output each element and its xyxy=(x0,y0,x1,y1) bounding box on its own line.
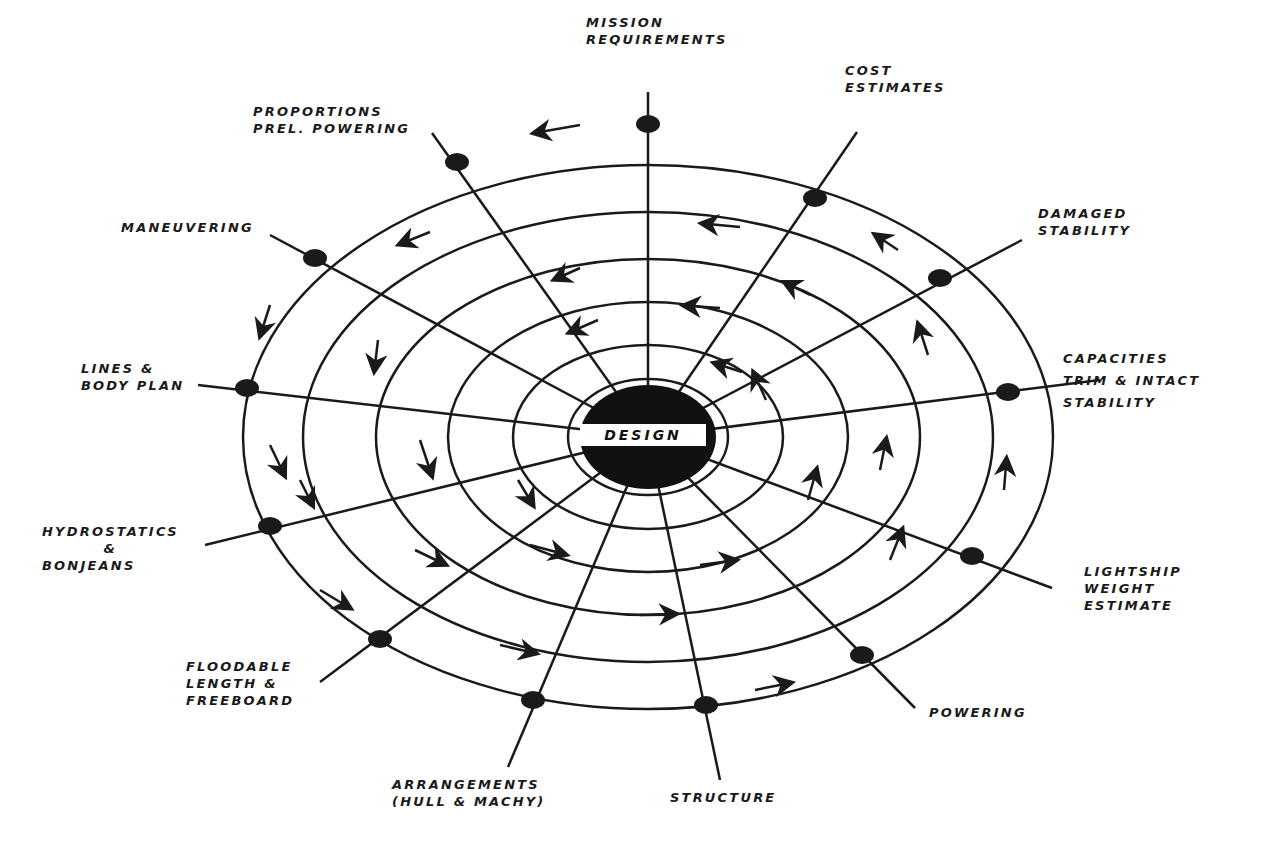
node-label-damaged-stability: DAMAGEDSTABILITY xyxy=(1038,205,1131,239)
node-label-mission-requirements: MISSIONREQUIREMENTS xyxy=(586,14,728,48)
node-label-structure: STRUCTURE xyxy=(670,789,776,806)
node-label-lines-body-plan: LINES &BODY PLAN xyxy=(81,360,184,394)
node-label-cost-estimates: COSTESTIMATES xyxy=(845,62,946,96)
node-label-arrangements: ARRANGEMENTS(HULL & MACHY) xyxy=(392,776,546,810)
node-label-maneuvering: MANEUVERING xyxy=(121,219,254,236)
node-label-powering: POWERING xyxy=(929,704,1027,721)
node-label-hydrostatics-bonjeans: HYDROSTATICS&BONJEANS xyxy=(42,523,179,574)
design-center-label: DESIGN xyxy=(580,424,706,446)
node-label-lightship-weight-estimate: LIGHTSHIPWEIGHTESTIMATE xyxy=(1084,563,1182,614)
design-spiral-diagram: DESIGN MISSIONREQUIREMENTS COSTESTIMATES… xyxy=(0,0,1267,853)
node-label-proportions-prel-powering: PROPORTIONSPREL. POWERING xyxy=(253,103,410,137)
node-label-floodable-length-freeboard: FLOODABLELENGTH &FREEBOARD xyxy=(186,658,294,709)
node-label-capacities-trim-intact-stability: CAPACITIESTRIM & INTACTSTABILITY xyxy=(1063,348,1200,414)
